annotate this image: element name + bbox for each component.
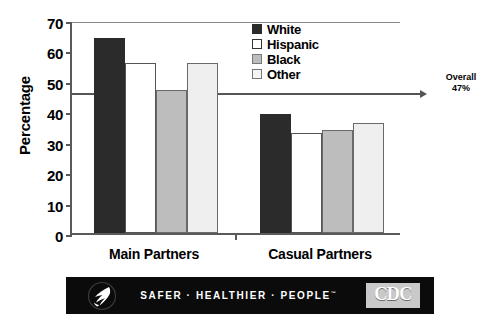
y-tick-label-30: 30: [23, 136, 72, 153]
y-tick-mark-30: [66, 144, 72, 146]
legend-label-black: Black: [267, 52, 300, 67]
bar-white-casual-partners: [260, 114, 291, 233]
x-axis-center-tick: [235, 235, 237, 240]
y-tick-label-70: 70: [23, 15, 72, 32]
cdc-logo: CDC: [366, 283, 420, 308]
legend-swatch-other: [252, 69, 262, 79]
legend-item-black: Black: [252, 52, 319, 66]
y-tick-label-60: 60: [23, 45, 72, 62]
legend-swatch-black: [252, 54, 262, 64]
bar-group-main-partners: [94, 23, 218, 233]
legend-item-white: White: [252, 22, 319, 36]
overall-arrow-icon: [420, 90, 427, 98]
trademark-symbol: ™: [331, 290, 336, 296]
y-tick-mark-70: [66, 22, 72, 24]
bar-white-main-partners: [94, 38, 125, 233]
legend-item-other: Other: [252, 67, 319, 81]
y-tick-mark-20: [66, 174, 72, 176]
bar-hispanic-casual-partners: [291, 133, 322, 233]
y-tick-label-20: 20: [23, 167, 72, 184]
y-tick-label-0: 0: [23, 228, 72, 245]
legend-swatch-hispanic: [252, 39, 262, 49]
y-tick-label-40: 40: [23, 106, 72, 123]
legend-item-hispanic: Hispanic: [252, 37, 319, 51]
bar-other-main-partners: [187, 63, 218, 233]
x-axis-label-main-partners: Main Partners: [79, 246, 229, 262]
overall-label-line2: 47%: [432, 83, 490, 94]
overall-label-line1: Overall: [432, 72, 490, 83]
bar-black-main-partners: [156, 90, 187, 233]
legend: WhiteHispanicBlackOther: [252, 22, 319, 82]
y-tick-mark-40: [66, 113, 72, 115]
y-tick-mark-10: [66, 205, 72, 207]
plot-area: 010203040506070: [70, 22, 400, 235]
overall-annotation: Overall 47%: [432, 72, 490, 94]
y-tick-mark-60: [66, 52, 72, 54]
y-tick-mark-0: [66, 235, 72, 237]
bar-black-casual-partners: [322, 130, 353, 233]
x-axis-label-casual-partners: Casual Partners: [245, 246, 395, 262]
legend-swatch-white: [252, 24, 262, 34]
cdc-logo-text: CDC: [374, 284, 412, 305]
bar-other-casual-partners: [353, 123, 384, 233]
legend-label-white: White: [267, 22, 301, 37]
bar-chart-figure: Percentage 010203040506070 Overall 47% W…: [0, 0, 501, 322]
legend-label-other: Other: [267, 67, 300, 82]
y-tick-label-10: 10: [23, 197, 72, 214]
cdc-banner: SAFER · HEALTHIER · PEOPLE™ CDC: [66, 277, 434, 314]
banner-tagline: SAFER · HEALTHIER · PEOPLE™: [116, 290, 360, 301]
legend-label-hispanic: Hispanic: [267, 37, 319, 52]
y-tick-label-50: 50: [23, 75, 72, 92]
bar-hispanic-main-partners: [125, 63, 156, 233]
banner-tagline-text: SAFER · HEALTHIER · PEOPLE: [140, 290, 330, 301]
y-tick-mark-50: [66, 83, 72, 85]
